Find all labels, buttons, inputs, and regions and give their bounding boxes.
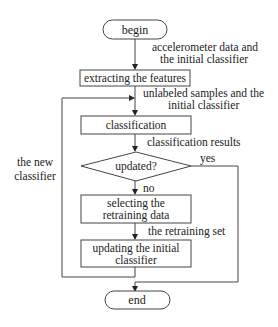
extract-node: extracting the features (80, 70, 190, 86)
update-label-2: classifier (115, 254, 157, 266)
edge-label-no: no (143, 182, 155, 194)
edge-label-unlabeled-2: initial classifier (168, 99, 239, 111)
edge-label-results: classification results (147, 136, 241, 148)
select-label-2: retraining data (103, 209, 170, 222)
arrow-head (132, 64, 138, 70)
arrow-head (132, 146, 138, 152)
edge-label-new-classifier-1: the new (17, 156, 54, 168)
edge-label-accelerometer-2: the initial classifier (160, 53, 248, 65)
edge-label-yes: yes (200, 152, 216, 165)
arrow-head (132, 189, 138, 195)
edge-label-accelerometer-1: accelerometer data and (152, 41, 258, 53)
begin-label: begin (122, 23, 149, 37)
begin-node: begin (103, 20, 167, 39)
end-node: end (105, 291, 170, 309)
flowchart: begin accelerometer data and the initial… (0, 0, 278, 327)
classify-label: classification (106, 119, 167, 131)
end-label: end (128, 293, 145, 307)
decision-node: updated? (81, 152, 191, 181)
select-node: selecting the retraining data (81, 195, 191, 223)
extract-label: extracting the features (84, 72, 187, 85)
update-node: updating the initial classifier (81, 240, 191, 267)
arrow-head (132, 110, 138, 116)
arrow-head (132, 234, 138, 240)
edge-label-new-classifier-2: classifier (14, 170, 56, 182)
edge-label-retraining-set: the retraining set (148, 225, 226, 238)
decision-label: updated? (115, 160, 157, 173)
classify-node: classification (81, 116, 191, 134)
